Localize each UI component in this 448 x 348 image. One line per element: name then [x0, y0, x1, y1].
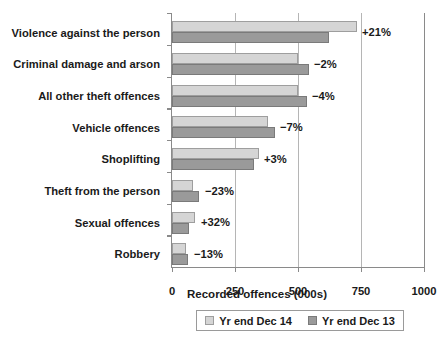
- plot-area: +21% −2% −4% −7% +3% −23% +32% −13% 0 25…: [171, 13, 424, 268]
- pct-change-all-other-theft-offences: −4%: [312, 90, 335, 102]
- bar-shoplifting-yr-end-dec-14: [172, 148, 259, 159]
- category-label-6: Sexual offences: [75, 217, 160, 229]
- legend-item-yr-end-dec-13[interactable]: Yr end Dec 13: [308, 315, 395, 327]
- legend-label-yr-end-dec-14: Yr end Dec 14: [219, 315, 292, 327]
- bar-vehicle-offences-yr-end-dec-14: [172, 116, 268, 127]
- bar-chart: Violence against the person Criminal dam…: [0, 0, 448, 348]
- y-tick-2: [167, 77, 172, 78]
- legend-swatch-icon-yr-end-dec-13: [308, 316, 317, 325]
- gridline-750: [361, 13, 362, 267]
- x-tick-0: [172, 267, 173, 272]
- y-tick-4: [167, 140, 172, 141]
- x-tick-750: [361, 267, 362, 272]
- legend-swatch-icon-yr-end-dec-14: [205, 316, 214, 325]
- pct-change-sexual-offences: +32%: [201, 216, 230, 228]
- x-axis-title-wrap: Recorded offences (000s): [0, 288, 448, 300]
- legend-item-yr-end-dec-14[interactable]: Yr end Dec 14: [205, 315, 292, 327]
- bar-all-other-theft-offences-yr-end-dec-14: [172, 85, 298, 96]
- y-tick-0: [167, 13, 172, 14]
- pct-change-criminal-damage-and-arson: −2%: [314, 58, 337, 70]
- category-label-4: Shoplifting: [102, 153, 160, 165]
- pct-change-theft-from-the-person: −23%: [205, 185, 234, 197]
- bar-sexual-offences-yr-end-dec-13: [172, 223, 189, 234]
- category-label-0: Violence against the person: [12, 27, 160, 39]
- bar-all-other-theft-offences-yr-end-dec-13: [172, 96, 307, 107]
- y-tick-6: [167, 204, 172, 205]
- chart-legend: Yr end Dec 14 Yr end Dec 13: [196, 310, 404, 331]
- y-tick-5: [167, 172, 172, 173]
- x-axis-title: Recorded offences (000s): [187, 288, 327, 300]
- x-tick-250: [235, 267, 236, 272]
- gridline-250: [235, 13, 236, 267]
- category-label-5: Theft from the person: [44, 185, 160, 197]
- y-tick-3: [167, 108, 172, 109]
- bar-sexual-offences-yr-end-dec-14: [172, 212, 195, 223]
- bar-violence-against-the-person-yr-end-dec-13: [172, 32, 329, 43]
- category-label-7: Robbery: [115, 248, 160, 260]
- category-label-2: All other theft offences: [38, 90, 160, 102]
- gridline-500: [298, 13, 299, 267]
- x-tick-1000: [424, 267, 425, 272]
- bar-robbery-yr-end-dec-14: [172, 243, 186, 254]
- bar-theft-from-the-person-yr-end-dec-14: [172, 180, 193, 191]
- y-tick-7: [167, 235, 172, 236]
- y-tick-1: [167, 45, 172, 46]
- x-tick-500: [298, 267, 299, 272]
- pct-change-vehicle-offences: −7%: [280, 121, 303, 133]
- category-label-3: Vehicle offences: [72, 122, 160, 134]
- legend-label-yr-end-dec-13: Yr end Dec 13: [322, 315, 395, 327]
- bar-criminal-damage-and-arson-yr-end-dec-13: [172, 64, 309, 75]
- gridline-1000: [424, 13, 425, 267]
- pct-change-robbery: −13%: [194, 248, 223, 260]
- bar-theft-from-the-person-yr-end-dec-13: [172, 191, 199, 202]
- bar-vehicle-offences-yr-end-dec-13: [172, 127, 275, 138]
- bar-robbery-yr-end-dec-13: [172, 254, 188, 265]
- pct-change-shoplifting: +3%: [264, 153, 287, 165]
- category-axis-labels: Violence against the person Criminal dam…: [0, 13, 166, 267]
- bar-violence-against-the-person-yr-end-dec-14: [172, 21, 357, 32]
- pct-change-violence-against-the-person: +21%: [362, 26, 391, 38]
- bar-shoplifting-yr-end-dec-13: [172, 159, 254, 170]
- bar-criminal-damage-and-arson-yr-end-dec-14: [172, 53, 298, 64]
- category-label-1: Criminal damage and arson: [13, 58, 160, 70]
